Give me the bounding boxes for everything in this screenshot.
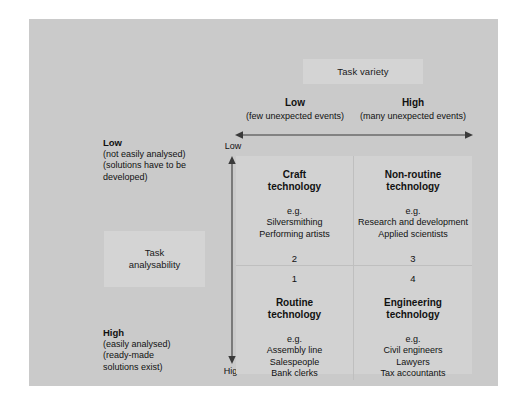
quadrant-non-routine-examples: Research and development Applied scienti… bbox=[358, 217, 468, 240]
x-axis-caption: Task variety bbox=[303, 59, 423, 84]
quadrant-non-routine-eg-label: e.g. bbox=[405, 206, 420, 217]
quadrant-engineering-technology: 4 Engineering technology e.g. Civil engi… bbox=[354, 266, 472, 380]
quadrant-craft-number: 2 bbox=[292, 253, 297, 264]
column-header-low-title: Low bbox=[236, 97, 354, 109]
y-axis-caption-line1: Task bbox=[145, 247, 165, 260]
quadrant-craft-title: Craft technology bbox=[268, 169, 321, 193]
column-header-high-title: High bbox=[354, 97, 472, 109]
y-axis-tick-low: Low bbox=[216, 141, 250, 151]
column-header-high: High (many unexpected events) bbox=[354, 97, 472, 122]
quadrant-routine-technology: 1 Routine technology e.g. Assembly line … bbox=[236, 266, 354, 380]
y-axis-caption-line2: analysability bbox=[129, 259, 181, 272]
x-axis-caption-label: Task variety bbox=[337, 66, 388, 77]
quadrant-craft-eg-label: e.g. bbox=[287, 206, 302, 217]
row-label-low: Low (not easily analysed) (solutions hav… bbox=[103, 137, 221, 183]
quadrant-routine-eg-label: e.g. bbox=[287, 334, 302, 345]
quadrant-non-routine-technology: Non-routine technology e.g. Research and… bbox=[354, 156, 472, 266]
quadrant-routine-number: 1 bbox=[292, 273, 297, 284]
x-axis-arrow-icon bbox=[234, 128, 474, 142]
column-header-high-sub: (many unexpected events) bbox=[354, 110, 472, 122]
column-headers: Low (few unexpected events) High (many u… bbox=[236, 97, 472, 122]
row-label-high: High (easily analysed) (ready-made solut… bbox=[103, 327, 221, 373]
row-label-high-title: High bbox=[103, 327, 221, 339]
technology-matrix-figure: Task variety Task analysability Low (few… bbox=[0, 0, 514, 399]
quadrant-matrix: Craft technology e.g. Silversmithing Per… bbox=[236, 156, 472, 374]
quadrant-routine-title: Routine technology bbox=[268, 297, 321, 321]
quadrant-engineering-number: 4 bbox=[410, 273, 415, 284]
row-label-high-sub: (easily analysed) (ready-made solutions … bbox=[103, 339, 171, 372]
figure-panel: Task variety Task analysability Low (few… bbox=[29, 19, 498, 386]
quadrant-engineering-eg-label: e.g. bbox=[405, 334, 420, 345]
quadrant-craft-examples: Silversmithing Performing artists bbox=[259, 217, 330, 240]
quadrant-engineering-title: Engineering technology bbox=[384, 297, 442, 321]
quadrant-non-routine-number: 3 bbox=[410, 253, 415, 264]
column-header-low-sub: (few unexpected events) bbox=[236, 110, 354, 122]
quadrant-routine-examples: Assembly line Salespeople Bank clerks bbox=[267, 345, 323, 379]
row-label-low-sub: (not easily analysed) (solutions have to… bbox=[103, 149, 186, 182]
quadrant-non-routine-title: Non-routine technology bbox=[385, 169, 442, 193]
quadrant-engineering-examples: Civil engineers Lawyers Tax accountants bbox=[380, 345, 445, 379]
column-header-low: Low (few unexpected events) bbox=[236, 97, 354, 122]
row-label-low-title: Low bbox=[103, 137, 221, 149]
y-axis-caption: Task analysability bbox=[104, 231, 205, 287]
quadrant-craft-technology: Craft technology e.g. Silversmithing Per… bbox=[236, 156, 354, 266]
